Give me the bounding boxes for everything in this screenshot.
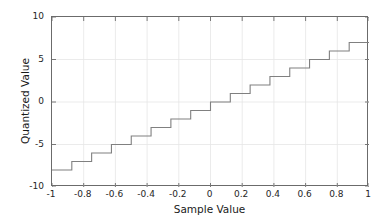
x-tick-label: -0.8 (74, 189, 92, 199)
y-axis-title: Quantized Value (19, 31, 31, 171)
x-tick-labels: -1-0.8-0.6-0.4-0.200.20.40.60.81 (0, 0, 382, 224)
quantizer-figure: -10-50510 -1-0.8-0.6-0.4-0.200.20.40.60.… (0, 0, 382, 224)
x-tick-label: -0.2 (169, 189, 187, 199)
x-tick-label: 1 (365, 189, 371, 199)
x-tick-label: 0.8 (329, 189, 343, 199)
x-axis-title: Sample Value (51, 203, 368, 215)
x-tick-label: 0.6 (297, 189, 311, 199)
x-tick-label: -1 (47, 189, 56, 199)
x-tick-label: 0.2 (234, 189, 248, 199)
x-tick-label: -0.4 (137, 189, 155, 199)
x-tick-label: 0 (207, 189, 213, 199)
x-tick-label: 0.4 (266, 189, 280, 199)
x-tick-label: -0.6 (106, 189, 124, 199)
